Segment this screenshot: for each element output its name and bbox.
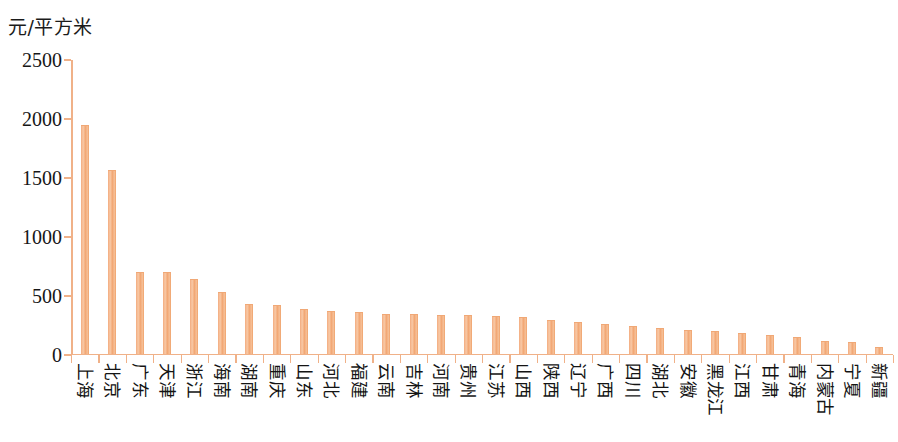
bar [492, 316, 500, 354]
y-axis-tick [64, 118, 71, 120]
x-axis-category-label: 北京 [103, 363, 121, 398]
y-axis-tick [64, 295, 71, 297]
x-axis-category-label: 天津 [157, 363, 175, 398]
bar [218, 292, 226, 354]
x-axis-category-label: 甘肃 [760, 363, 778, 398]
bar [821, 341, 829, 353]
x-axis-tick [564, 355, 565, 363]
x-axis-tick [290, 355, 291, 363]
bar [190, 279, 198, 354]
x-axis-category-label: 黑龙江 [705, 363, 723, 416]
bar [300, 309, 308, 353]
x-axis-tick [263, 355, 264, 363]
x-axis-tick [372, 355, 373, 363]
bar [629, 326, 637, 354]
y-axis-tick [64, 236, 71, 238]
x-axis-tick [646, 355, 647, 363]
x-axis-category-label: 广东 [130, 363, 148, 398]
x-axis-tick [235, 355, 236, 363]
x-axis-category-label: 海南 [212, 363, 230, 398]
bar [136, 272, 144, 354]
x-axis-category-label: 河北 [322, 363, 340, 398]
x-axis-tick [619, 355, 620, 363]
y-axis-tick-labels: 25002000150010005000 [0, 60, 62, 355]
x-axis-category-label: 陕西 [541, 363, 559, 398]
x-axis-tick [537, 355, 538, 363]
x-axis-tick [592, 355, 593, 363]
x-axis-category-label: 福建 [349, 363, 367, 398]
x-axis-category-label: 青海 [788, 363, 806, 398]
bar [684, 330, 692, 354]
bar [738, 333, 746, 353]
x-axis-tick [400, 355, 401, 363]
y-axis-tick [64, 354, 71, 356]
y-axis-unit-label: 元/平方米 [8, 16, 93, 38]
x-axis-tick [893, 355, 894, 363]
x-axis-category-label: 广西 [596, 363, 614, 398]
bar [766, 335, 774, 353]
x-axis-category-label: 云南 [377, 363, 395, 398]
x-axis-tick [729, 355, 730, 363]
x-axis-category-label: 河南 [431, 363, 449, 398]
bar [437, 315, 445, 354]
bar [793, 337, 801, 353]
x-axis-tick [427, 355, 428, 363]
bar [108, 170, 116, 353]
bar [81, 125, 89, 354]
x-axis-category-label: 山东 [294, 363, 312, 398]
x-axis-tick [181, 355, 182, 363]
plot-area [71, 60, 893, 355]
x-axis-tick [756, 355, 757, 363]
x-axis-tick [153, 355, 154, 363]
x-axis-tick [783, 355, 784, 363]
x-axis-tick [208, 355, 209, 363]
x-axis-category-label: 山西 [514, 363, 532, 398]
bar [245, 304, 253, 354]
x-axis-category-label: 贵州 [459, 363, 477, 398]
x-axis-category-label: 四川 [623, 363, 641, 398]
bar [656, 328, 664, 353]
bar [574, 322, 582, 353]
bar [163, 272, 171, 354]
x-axis-tick [482, 355, 483, 363]
x-axis-category-label: 辽宁 [568, 363, 586, 398]
bar [355, 312, 363, 353]
x-axis-category-label: 安徽 [678, 363, 696, 398]
bar-chart: 元/平方米 25002000150010005000 上海北京广东天津浙江海南湖… [0, 0, 898, 442]
x-axis-category-label: 内蒙古 [815, 363, 833, 416]
x-axis-tick [811, 355, 812, 363]
x-axis-category-label: 宁夏 [842, 363, 860, 398]
bar [464, 315, 472, 353]
x-axis-tick [98, 355, 99, 363]
y-axis-tick-label: 500 [32, 286, 62, 306]
x-axis-tick [345, 355, 346, 363]
bar [875, 347, 883, 354]
x-axis-category-label: 湖北 [651, 363, 669, 398]
x-axis-category-label: 江西 [733, 363, 751, 398]
x-axis-tick [866, 355, 867, 363]
x-axis-category-label: 重庆 [267, 363, 285, 398]
y-axis-tick [64, 177, 71, 179]
x-axis-tick [318, 355, 319, 363]
bar [848, 342, 856, 354]
y-axis-tick-label: 0 [52, 345, 62, 365]
y-axis-tick-label: 1500 [22, 168, 62, 188]
x-axis-tick [126, 355, 127, 363]
x-axis-tick [701, 355, 702, 363]
y-axis-tick-label: 2500 [22, 50, 62, 70]
x-axis-category-label: 吉林 [404, 363, 422, 398]
x-axis-category-label: 江苏 [486, 363, 504, 398]
bar [327, 311, 335, 353]
bar [547, 320, 555, 353]
x-axis-tick [71, 355, 72, 363]
y-axis-tick [64, 59, 71, 61]
x-axis-tick [674, 355, 675, 363]
x-axis-category-labels: 上海北京广东天津浙江海南湖南重庆山东河北福建云南吉林河南贵州江苏山西陕西辽宁广西… [71, 363, 893, 442]
y-axis-tick-label: 2000 [22, 109, 62, 129]
bar [273, 305, 281, 353]
x-axis-category-label: 新疆 [870, 363, 888, 398]
bar [711, 331, 719, 353]
x-axis-category-label: 浙江 [185, 363, 203, 398]
x-axis-category-label: 湖南 [240, 363, 258, 398]
x-axis-category-label: 上海 [75, 363, 93, 398]
